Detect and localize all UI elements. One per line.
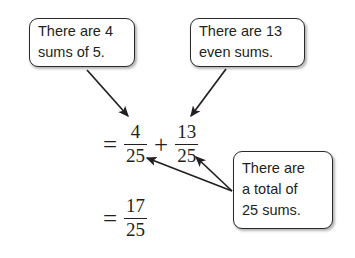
callout-total-sums-line-2: a total of <box>242 179 324 200</box>
callout-total-sums-line-1: There are <box>242 158 324 179</box>
denominator-25-left: 25 <box>124 145 147 167</box>
fraction-seventeen-twentyfifths: 17 25 <box>124 196 147 240</box>
arrow-even-sums-to-right-numerator <box>191 69 226 116</box>
denominator-25-right: 25 <box>175 145 198 167</box>
numerator-4: 4 <box>129 122 143 144</box>
callout-even-sums: There are 13 even sums. <box>190 18 305 67</box>
fraction-four-twentyfifths: 4 25 <box>124 122 147 166</box>
callout-total-sums: There are a total of 25 sums. <box>233 151 333 229</box>
equation-sum-line: = 4 25 + 13 25 <box>103 122 198 166</box>
callout-even-sums-line-2: even sums. <box>199 42 296 63</box>
callout-four-sums-line-2: sums of 5. <box>38 42 126 63</box>
plus-operator: + <box>154 132 168 157</box>
equation-result-line: = 17 25 <box>103 196 147 240</box>
denominator-25-result: 25 <box>124 219 147 241</box>
diagram-canvas: There are 4 sums of 5. There are 13 even… <box>0 0 355 258</box>
arrow-total-sums-to-right-denominator <box>196 157 232 191</box>
numerator-17: 17 <box>124 196 147 218</box>
callout-even-sums-line-1: There are 13 <box>199 21 296 42</box>
fraction-thirteen-twentyfifths: 13 25 <box>175 122 198 166</box>
equals-sign-sum: = <box>103 132 117 157</box>
arrow-four-sums-to-left-numerator <box>87 70 128 116</box>
numerator-13: 13 <box>175 122 198 144</box>
callout-total-sums-line-3: 25 sums. <box>242 200 324 221</box>
callout-four-sums: There are 4 sums of 5. <box>29 18 135 67</box>
equals-sign-result: = <box>103 206 117 231</box>
callout-four-sums-line-1: There are 4 <box>38 21 126 42</box>
